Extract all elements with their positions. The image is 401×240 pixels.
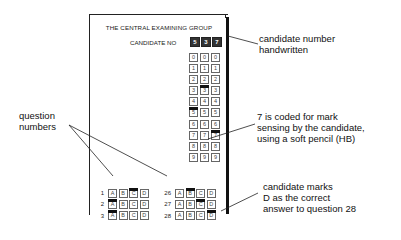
annotation-line: D as the correct	[263, 192, 356, 203]
annotation-line: using a soft pencil (HB)	[257, 133, 365, 144]
annotation-line: candidate marks	[263, 181, 356, 192]
annotation-candidate-number: candidate number handwritten	[259, 33, 335, 55]
annotation-line: handwritten	[259, 44, 335, 55]
annotation-line: numbers	[19, 121, 56, 132]
annotation-line: sensing by the candidate,	[257, 122, 365, 133]
annotation-question-numbers: question numbers	[19, 110, 56, 132]
annotation-line: answer to question 28	[263, 203, 356, 214]
annotation-candidate-marks: candidate marks D as the correct answer …	[263, 181, 356, 214]
annotation-line: 7 is coded for mark	[257, 111, 365, 122]
annotation-mark-sensing: 7 is coded for mark sensing by the candi…	[257, 111, 365, 144]
annotation-line: question	[19, 110, 56, 121]
annotation-line: candidate number	[259, 33, 335, 44]
